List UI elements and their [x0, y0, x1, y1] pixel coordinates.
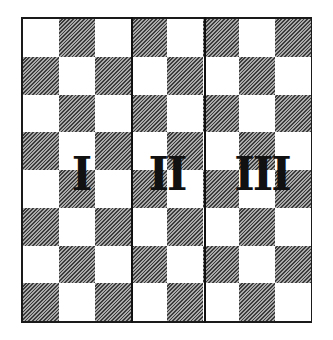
light-square: [275, 208, 311, 246]
light-square: [167, 95, 203, 133]
light-square: [239, 246, 275, 284]
light-square: [167, 246, 203, 284]
dark-square: [59, 246, 95, 284]
light-square: [131, 208, 167, 246]
dark-square: [275, 246, 311, 284]
dark-square: [203, 95, 239, 133]
dark-square: [23, 208, 59, 246]
light-square: [23, 95, 59, 133]
dark-square: [23, 283, 59, 321]
dark-square: [167, 208, 203, 246]
dark-square: [23, 132, 59, 170]
region-label-iii: III: [234, 151, 280, 197]
dark-square: [131, 19, 167, 57]
dark-square: [59, 19, 95, 57]
region-divider-1: [131, 17, 134, 323]
region-label-ii: II: [146, 151, 188, 197]
light-square: [23, 170, 59, 208]
dark-square: [239, 57, 275, 95]
dark-square: [239, 208, 275, 246]
dark-square: [239, 283, 275, 321]
light-square: [95, 170, 131, 208]
light-square: [203, 57, 239, 95]
light-square: [131, 57, 167, 95]
light-square: [203, 208, 239, 246]
dark-square: [167, 283, 203, 321]
region-divider-2: [204, 17, 207, 323]
dark-square: [203, 246, 239, 284]
light-square: [95, 246, 131, 284]
light-square: [59, 283, 95, 321]
region-label-i: I: [62, 151, 100, 197]
light-square: [23, 19, 59, 57]
dark-square: [95, 283, 131, 321]
light-square: [95, 95, 131, 133]
light-square: [59, 208, 95, 246]
dark-square: [95, 57, 131, 95]
light-square: [23, 246, 59, 284]
light-square: [131, 283, 167, 321]
dark-square: [23, 57, 59, 95]
chessboard: I II III: [21, 17, 312, 323]
dark-square: [167, 57, 203, 95]
light-square: [203, 283, 239, 321]
light-square: [239, 19, 275, 57]
dark-square: [131, 246, 167, 284]
light-square: [59, 57, 95, 95]
light-square: [239, 95, 275, 133]
dark-square: [275, 95, 311, 133]
light-square: [275, 283, 311, 321]
light-square: [167, 19, 203, 57]
light-square: [275, 57, 311, 95]
dark-square: [203, 19, 239, 57]
light-square: [95, 19, 131, 57]
dark-square: [95, 208, 131, 246]
dark-square: [275, 19, 311, 57]
dark-square: [59, 95, 95, 133]
dark-square: [95, 132, 131, 170]
dark-square: [131, 95, 167, 133]
